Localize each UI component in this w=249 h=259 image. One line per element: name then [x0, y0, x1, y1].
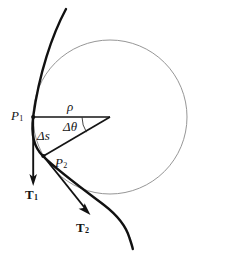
- label-tangent-vector-t1: T1: [25, 188, 38, 203]
- label-tangent-vector-t2: T2: [76, 221, 89, 236]
- label-point-p1-subscript: 1: [19, 114, 23, 123]
- label-tangent-vector-t2-subscript: 2: [85, 226, 89, 235]
- label-point-p2-subscript: 2: [63, 161, 67, 170]
- curvature-figure: P1 P2 ρ Δs Δθ T1 T2: [0, 0, 249, 259]
- label-arc-length-delta-s: Δs: [37, 129, 50, 142]
- label-tangent-vector-t2-base: T: [76, 220, 85, 235]
- label-radius-rho: ρ: [67, 100, 73, 113]
- label-point-p2-base: P: [55, 155, 63, 170]
- label-tangent-vector-t1-subscript: 1: [34, 193, 38, 202]
- angle-arc: [82, 117, 87, 132]
- label-angle-delta-theta: Δθ: [63, 120, 77, 133]
- label-point-p1-base: P: [11, 108, 19, 123]
- tangent-vector-2-arrowhead: [79, 203, 91, 215]
- label-tangent-vector-t1-base: T: [25, 187, 34, 202]
- label-point-p2: P2: [55, 156, 67, 171]
- label-point-p1: P1: [11, 109, 23, 124]
